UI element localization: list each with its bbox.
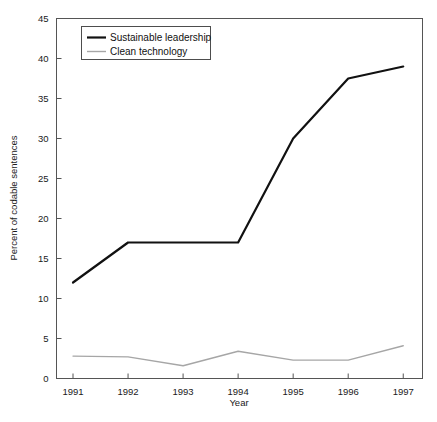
y-tick-label: 40 [38, 53, 49, 64]
y-tick-label: 35 [38, 93, 49, 104]
y-tick-label: 5 [43, 333, 48, 344]
line-chart: 051015202530354045 199119921993199419951… [0, 0, 437, 422]
legend-label-sustainable-leadership: Sustainable leadership [110, 32, 212, 43]
y-tick-label: 45 [38, 13, 49, 24]
y-tick-label: 0 [43, 373, 48, 384]
x-tick-label: 1992 [117, 386, 138, 397]
legend-label-clean-technology: Clean technology [110, 46, 187, 57]
y-tick-label: 15 [38, 253, 49, 264]
y-tick-label: 25 [38, 173, 49, 184]
x-tick-label: 1993 [173, 386, 194, 397]
y-tick-label: 10 [38, 293, 49, 304]
chart-legend: Sustainable leadership Clean technology [82, 27, 212, 60]
x-tick-label: 1991 [62, 386, 83, 397]
chart-background [0, 0, 437, 422]
x-tick-label: 1996 [338, 386, 359, 397]
y-axis-title: Percent of codable sentences [8, 135, 19, 260]
chart-canvas: 051015202530354045 199119921993199419951… [0, 0, 437, 422]
x-tick-label: 1994 [228, 386, 249, 397]
y-tick-label: 20 [38, 213, 49, 224]
x-tick-label: 1995 [283, 386, 304, 397]
x-axis-title: Year [229, 397, 248, 408]
x-tick-label: 1997 [393, 386, 414, 397]
y-tick-label: 30 [38, 133, 49, 144]
